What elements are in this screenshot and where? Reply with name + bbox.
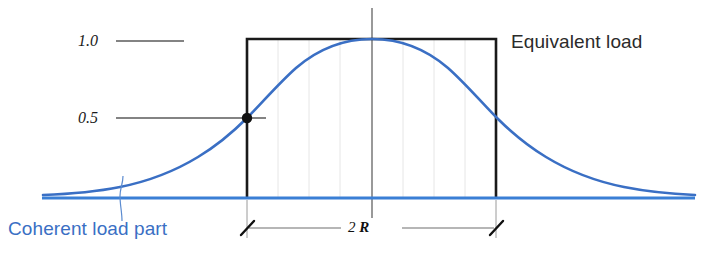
dimension-label-2r: 2 R <box>348 220 369 235</box>
dimension-value: 2 <box>348 219 356 235</box>
half-max-marker-dot <box>242 113 252 123</box>
dimension-symbol: R <box>359 219 369 235</box>
equivalent-load-label: Equivalent load <box>511 32 642 51</box>
figure-equivalent-load: 1.0 0.5 Equivalent load Coherent load pa… <box>0 0 725 254</box>
axis-label-1-0: 1.0 <box>78 33 98 49</box>
coherent-load-curve <box>43 39 695 195</box>
coherent-load-part-label: Coherent load part <box>8 219 167 238</box>
axis-label-0-5: 0.5 <box>78 110 98 126</box>
